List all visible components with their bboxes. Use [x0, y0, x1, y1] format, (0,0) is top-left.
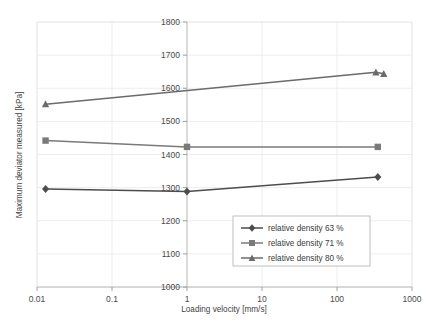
data-point-marker-diamond: [374, 173, 381, 181]
x-tick-label: 1: [185, 294, 190, 304]
data-series-group: [42, 69, 387, 196]
y-tick-label: 1000: [161, 282, 180, 292]
y-tick-label: 1400: [161, 150, 180, 160]
series-line: [46, 177, 378, 192]
y-tick-label: 1700: [161, 50, 180, 60]
data-point-marker-square: [42, 137, 48, 143]
y-axis-tick-labels: 100011001200130014001500160017001800: [161, 17, 180, 292]
data-point-marker-square: [184, 144, 190, 150]
x-tick-label: 0.01: [29, 294, 46, 304]
legend-label-3[interactable]: relative density 80 %: [268, 254, 344, 263]
y-tick-label: 1200: [161, 216, 180, 226]
x-axis-tick-labels: 0.010.11101001000: [29, 294, 422, 304]
x-axis-title: Loading velocity [mm/s]: [181, 305, 267, 314]
x-tick-label: 1000: [403, 294, 422, 304]
legend-label-2[interactable]: relative density 71 %: [268, 239, 344, 248]
y-tick-label: 1100: [162, 249, 181, 259]
y-axis-title: Maximum deviator measured [kPa]: [15, 92, 24, 219]
chart-container: 100011001200130014001500160017001800 0.0…: [0, 0, 428, 331]
legend-label-1[interactable]: relative density 63 %: [268, 224, 344, 233]
series-line: [46, 141, 378, 147]
x-tick-label: 100: [330, 294, 344, 304]
line-chart: 100011001200130014001500160017001800 0.0…: [0, 0, 428, 331]
data-point-marker-diamond: [184, 188, 191, 196]
y-tick-label: 1800: [161, 17, 180, 27]
x-tick-label: 10: [257, 294, 267, 304]
y-tick-label: 1500: [161, 116, 180, 126]
series-1: [42, 173, 381, 196]
x-tick-label: 0.1: [106, 294, 118, 304]
data-point-marker-square: [375, 144, 381, 150]
series-2: [42, 137, 381, 150]
data-point-marker-diamond: [42, 185, 49, 193]
chart-legend[interactable]: relative density 63 %relative density 71…: [233, 216, 370, 266]
data-point-marker-square: [249, 240, 255, 246]
